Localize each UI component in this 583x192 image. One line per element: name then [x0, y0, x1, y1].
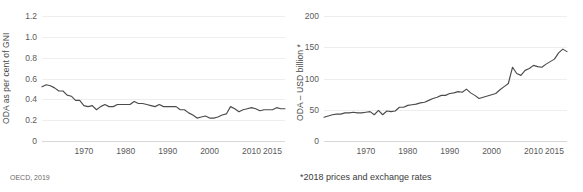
x-tick-label: 1980: [116, 146, 135, 156]
y-tick-label: 0: [32, 136, 37, 146]
plot-area-left: 00.20.40.60.81.01.2 19701980199020002010…: [0, 0, 291, 192]
x-axis-ticks-left: 197019801990200020102015: [74, 146, 282, 156]
y-tick-label: 0.2: [25, 115, 37, 125]
y-tick-label: 50: [310, 105, 320, 115]
x-tick-label: 1970: [356, 146, 375, 156]
x-tick-label: 2015: [545, 146, 564, 156]
x-axis-ticks-right: 197019801990200020102015: [356, 146, 564, 156]
x-tick-label: 2000: [482, 146, 501, 156]
gridlines-left: [42, 17, 285, 142]
x-tick-label: 1980: [398, 146, 417, 156]
data-line-left: [42, 85, 285, 118]
x-tick-label: 1990: [440, 146, 459, 156]
x-tick-label: 2010: [242, 146, 261, 156]
x-tick-label: 2000: [200, 146, 219, 156]
y-tick-label: 1.0: [25, 32, 37, 42]
data-line-right: [324, 49, 567, 117]
plot-area-right: 050100150200 197019801990200020102015: [291, 0, 583, 192]
y-tick-label: 0.6: [25, 74, 37, 84]
footnote-left: OECD, 2019: [10, 174, 50, 181]
x-tick-label: 1990: [158, 146, 177, 156]
dual-line-chart-figure: ODA as per cent of GNI 00.20.40.60.81.01…: [0, 0, 583, 192]
x-tick-label: 1970: [74, 146, 93, 156]
y-tick-label: 150: [305, 42, 319, 52]
y-tick-label: 0: [314, 136, 319, 146]
footnote-right: *2018 prices and exchange rates: [300, 172, 432, 182]
y-tick-label: 100: [305, 74, 319, 84]
y-axis-ticks-right: 050100150200: [305, 11, 319, 146]
y-tick-label: 200: [305, 11, 319, 21]
y-tick-label: 0.4: [25, 94, 37, 104]
x-tick-label: 2015: [263, 146, 282, 156]
y-axis-ticks-left: 00.20.40.60.81.01.2: [25, 11, 37, 146]
y-tick-label: 1.2: [25, 11, 37, 21]
chart-panel-right: 050100150200 197019801990200020102015: [291, 0, 583, 192]
x-tick-label: 2010: [524, 146, 543, 156]
y-axis-label-right: ODA – USD billion *: [295, 22, 305, 142]
chart-panel-left: ODA as per cent of GNI 00.20.40.60.81.01…: [0, 0, 291, 192]
gridlines-right: [324, 17, 567, 142]
y-tick-label: 0.8: [25, 53, 37, 63]
